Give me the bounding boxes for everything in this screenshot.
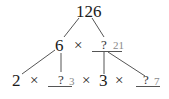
level1-left-factor: 6 bbox=[55, 37, 64, 54]
level1-answer: 21 bbox=[113, 40, 124, 51]
level2-unknown-factor-2[interactable]: ? bbox=[143, 73, 149, 86]
level2-answer-2: 7 bbox=[154, 76, 160, 87]
level2-multiply-sign-2: × bbox=[82, 73, 90, 88]
level2-factor-2: 2 bbox=[12, 72, 21, 89]
level1-multiply-sign: × bbox=[74, 38, 82, 53]
root-number: 126 bbox=[76, 3, 102, 20]
level1-unknown-factor[interactable]: ? bbox=[101, 38, 107, 51]
level2-unknown-factor-1[interactable]: ? bbox=[58, 73, 64, 86]
level2-multiply-sign-1: × bbox=[30, 73, 38, 88]
level2-answer-1: 3 bbox=[69, 76, 75, 87]
level1-answer-blank bbox=[92, 51, 122, 52]
level2-factor-3: 3 bbox=[99, 72, 108, 89]
level2-multiply-sign-3: × bbox=[115, 73, 123, 88]
factor-tree-diagram: 126 6 × ? 21 2 × ? 3 × 3 × ? 7 bbox=[0, 0, 169, 99]
